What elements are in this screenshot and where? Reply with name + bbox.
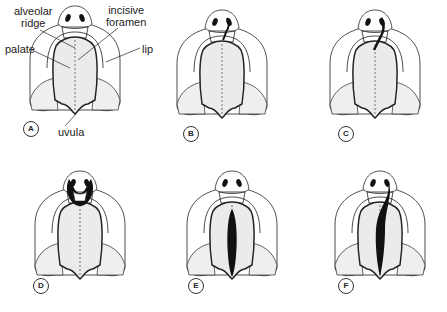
label-uvula: uvula bbox=[58, 126, 84, 138]
leader-uvula bbox=[65, 114, 76, 126]
panel-letter-d: D bbox=[33, 278, 49, 294]
label-alveolar-line1: alveolar bbox=[14, 5, 53, 17]
panel-letter-c: C bbox=[338, 126, 354, 142]
palate-drawing-d bbox=[35, 171, 125, 279]
label-incisive-foramen: incisive foramen bbox=[106, 4, 146, 28]
label-alveolar-ridge: alveolar ridge bbox=[14, 5, 53, 29]
panel-letter-b: B bbox=[183, 126, 199, 142]
palate-drawing-f bbox=[335, 171, 425, 279]
palate-drawing-e bbox=[187, 171, 277, 279]
cleft-palate-diagram: alveolar ridge incisive foramen palate l… bbox=[0, 0, 447, 312]
label-lip: lip bbox=[142, 43, 153, 55]
label-alveolar-line2: ridge bbox=[14, 17, 53, 29]
panel-letter-e: E bbox=[188, 278, 204, 294]
diagram-canvas bbox=[0, 0, 447, 312]
panel-letter-f: F bbox=[338, 278, 354, 294]
label-incisive-line2: foramen bbox=[106, 16, 146, 28]
label-incisive-line1: incisive bbox=[106, 4, 146, 16]
palate-drawing-b bbox=[177, 10, 267, 118]
panel-letter-a: A bbox=[23, 121, 39, 137]
palate-drawing-c bbox=[330, 10, 420, 118]
label-palate: palate bbox=[5, 43, 35, 55]
